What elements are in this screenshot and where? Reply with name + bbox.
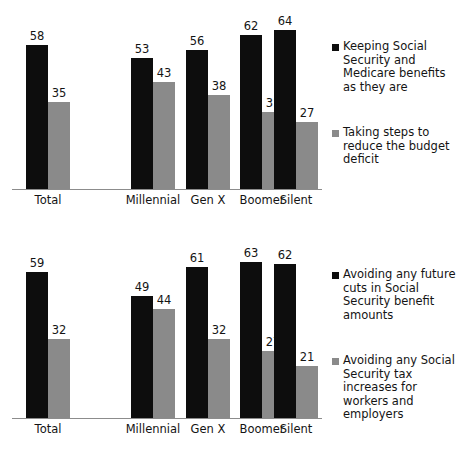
bar: [186, 50, 208, 189]
legend-swatch-icon: [332, 358, 339, 365]
x-axis-line: [12, 189, 322, 190]
bar-value-label: 38: [199, 80, 239, 93]
category-label-total: Total: [14, 422, 82, 436]
bar: [131, 296, 153, 418]
legend-item[interactable]: Keeping Social Security and Medicare ben…: [332, 40, 460, 94]
bar: [48, 102, 70, 189]
bar-group-total-series-1: 35: [48, 0, 70, 189]
legend-swatch-icon: [332, 272, 339, 279]
legend-swatch-icon: [332, 44, 339, 51]
category-label-silent: Silent: [262, 193, 330, 207]
plot-area-bottom: 5932Total4944Millennial6132Gen X6327Boom…: [0, 230, 330, 430]
bar-group-silent-series-1: 27: [296, 0, 318, 189]
bar-group-gen-x-series-1: 38: [208, 0, 230, 189]
legend-label: Keeping Social Security and Medicare ben…: [343, 40, 460, 94]
bar-group-millennial-series-0: 53: [131, 0, 153, 189]
bar-group-boomer-series-0: 63: [240, 230, 262, 418]
bar-group-millennial-series-1: 44: [153, 230, 175, 418]
legend-label: Avoiding any Social Security tax increas…: [343, 354, 460, 422]
bar-value-label: 32: [39, 324, 79, 337]
chart-cuts-vs-taxes: 5932Total4944Millennial6132Gen X6327Boom…: [0, 230, 461, 459]
category-label-total: Total: [14, 193, 82, 207]
bar-group-silent-series-0: 64: [274, 0, 296, 189]
bar: [26, 272, 48, 418]
bar-group-silent-series-0: 62: [274, 230, 296, 418]
chart-benefits-vs-deficit: 5835Total5343Millennial5638Gen X6231Boom…: [0, 0, 461, 230]
bar-group-total-series-1: 32: [48, 230, 70, 418]
legend-item[interactable]: Avoiding any future cuts in Social Secur…: [332, 268, 460, 322]
bar: [153, 309, 175, 418]
plot-area-top: 5835Total5343Millennial5638Gen X6231Boom…: [0, 0, 330, 200]
bar: [153, 82, 175, 189]
legend-label: Avoiding any future cuts in Social Secur…: [343, 268, 460, 322]
bar-group-boomer-series-0: 62: [240, 0, 262, 189]
legend-label: Taking steps to reduce the budget defici…: [343, 126, 460, 167]
bar-value-label: 32: [199, 324, 239, 337]
bar: [208, 339, 230, 418]
bar-group-gen-x-series-0: 56: [186, 0, 208, 189]
bar-value-label: 35: [39, 87, 79, 100]
bar: [296, 122, 318, 189]
bar: [48, 339, 70, 418]
bar-group-gen-x-series-1: 32: [208, 230, 230, 418]
bar-value-label: 27: [287, 107, 327, 120]
bar: [26, 45, 48, 189]
legend-item[interactable]: Avoiding any Social Security tax increas…: [332, 354, 460, 422]
category-label-silent: Silent: [262, 422, 330, 436]
bar-value-label: 21: [287, 351, 327, 364]
bar-group-silent-series-1: 21: [296, 230, 318, 418]
bar-group-millennial-series-0: 49: [131, 230, 153, 418]
bar: [274, 264, 296, 418]
bar-value-label: 44: [144, 294, 184, 307]
x-axis-line: [12, 418, 322, 419]
bar: [208, 95, 230, 189]
bar: [186, 267, 208, 418]
legend-item[interactable]: Taking steps to reduce the budget defici…: [332, 126, 460, 167]
legend-swatch-icon: [332, 130, 339, 137]
bar-value-label: 43: [144, 67, 184, 80]
bar: [296, 366, 318, 418]
bar: [240, 35, 262, 189]
bar-group-millennial-series-1: 43: [153, 0, 175, 189]
